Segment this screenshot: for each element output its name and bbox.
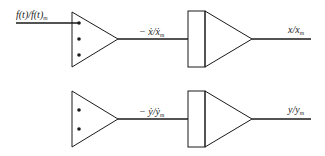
input-dot-x-1 [77, 21, 81, 25]
input-dot-y-1 [77, 108, 81, 112]
label-xdot: − ẋ/ẋm [139, 27, 164, 38]
integrator-amplifier-x [205, 11, 252, 67]
summer-amplifier-y [72, 91, 118, 147]
input-dot-y-2 [77, 127, 81, 131]
label-ydot: − ẏ/ẏm [139, 107, 164, 118]
label-input-f: f(t)/f(t)m [16, 10, 48, 21]
input-dot-x-3 [77, 53, 81, 57]
integrator-amplifier-y [205, 91, 252, 147]
label-y-output: y/ym [288, 105, 304, 116]
integrator-box-y [188, 91, 205, 147]
label-x-output: x/xm [288, 25, 304, 36]
block-diagram [0, 0, 325, 156]
integrator-box-x [188, 11, 205, 67]
input-dot-x-2 [77, 37, 81, 41]
